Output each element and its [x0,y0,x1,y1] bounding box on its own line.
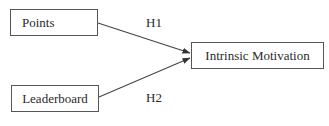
edge-label-h1: H1 [146,16,162,29]
node-leaderboard: Leaderboard [11,85,99,112]
node-intrinsic-motivation-label: Intrinsic Motivation [205,49,309,62]
node-intrinsic-motivation: Intrinsic Motivation [191,42,324,69]
edge-h1-arrow [98,23,190,53]
edge-label-h2: H2 [146,91,162,104]
node-leaderboard-label: Leaderboard [22,92,88,105]
edge-h2-arrow [99,58,190,97]
node-points: Points [10,9,98,36]
node-points-label: Points [22,16,55,29]
